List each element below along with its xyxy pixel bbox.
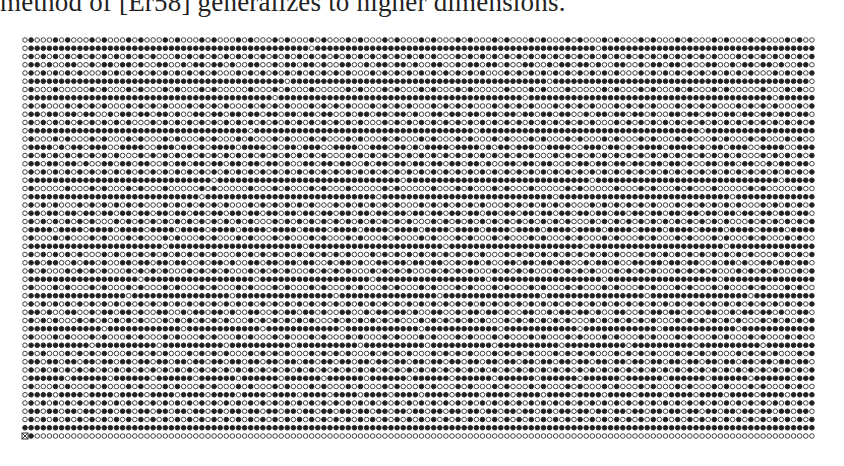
filled-point: [395, 79, 400, 84]
filled-point: [639, 203, 644, 208]
open-point: [547, 302, 552, 307]
filled-point: [688, 38, 693, 43]
open-point: [334, 38, 339, 43]
filled-point: [541, 285, 546, 290]
open-point: [291, 137, 296, 142]
filled-point: [285, 368, 290, 373]
open-point: [352, 252, 357, 257]
open-point: [499, 211, 504, 216]
filled-point: [163, 409, 168, 414]
filled-point: [535, 227, 540, 232]
filled-point: [47, 145, 52, 150]
filled-point: [65, 252, 70, 257]
filled-point: [669, 211, 674, 216]
open-point: [663, 112, 668, 117]
open-point: [791, 161, 796, 166]
open-point: [572, 62, 577, 67]
open-point: [450, 104, 455, 109]
open-point: [560, 236, 565, 241]
filled-point: [523, 409, 528, 414]
filled-point: [602, 161, 607, 166]
filled-point: [419, 425, 424, 430]
filled-point: [523, 46, 528, 51]
open-point: [96, 54, 101, 59]
open-point: [377, 120, 382, 125]
open-point: [120, 38, 125, 43]
filled-point: [797, 417, 802, 422]
filled-point: [651, 38, 656, 43]
open-point: [340, 71, 345, 76]
filled-point: [96, 376, 101, 381]
filled-point: [29, 359, 34, 364]
open-point: [523, 203, 528, 208]
filled-point: [90, 46, 95, 51]
filled-point: [797, 95, 802, 100]
open-point: [645, 293, 650, 298]
filled-point: [291, 112, 296, 117]
open-point: [621, 260, 626, 265]
open-point: [236, 186, 241, 191]
filled-point: [743, 145, 748, 150]
open-point: [694, 392, 699, 397]
open-point: [621, 219, 626, 224]
open-point: [511, 417, 516, 422]
open-point: [133, 252, 138, 257]
filled-point: [761, 153, 766, 158]
filled-point: [346, 170, 351, 175]
filled-point: [761, 38, 766, 43]
open-point: [377, 384, 382, 389]
filled-point: [639, 46, 644, 51]
open-point: [669, 219, 674, 224]
filled-point: [614, 368, 619, 373]
open-point: [596, 186, 601, 191]
filled-point: [364, 194, 369, 199]
filled-point: [218, 194, 223, 199]
filled-point: [65, 269, 70, 274]
open-point: [608, 170, 613, 175]
filled-point: [187, 401, 192, 406]
filled-point: [480, 153, 485, 158]
open-point: [590, 335, 595, 340]
open-point: [444, 384, 449, 389]
filled-point: [529, 384, 534, 389]
filled-point: [254, 62, 259, 67]
filled-point: [706, 310, 711, 315]
filled-point: [584, 409, 589, 414]
filled-point: [614, 302, 619, 307]
open-point: [72, 285, 77, 290]
filled-point: [712, 71, 717, 76]
filled-point: [358, 326, 363, 331]
filled-point: [578, 401, 583, 406]
open-point: [352, 120, 357, 125]
open-point: [511, 227, 516, 232]
filled-point: [596, 392, 601, 397]
open-point: [59, 401, 64, 406]
filled-point: [90, 95, 95, 100]
filled-point: [724, 401, 729, 406]
open-point: [584, 285, 589, 290]
filled-point: [126, 417, 131, 422]
filled-point: [334, 302, 339, 307]
filled-point: [102, 145, 107, 150]
open-point: [47, 401, 52, 406]
filled-point: [261, 128, 266, 133]
filled-point: [212, 392, 217, 397]
open-point: [352, 153, 357, 158]
filled-point: [47, 112, 52, 117]
filled-point: [505, 236, 510, 241]
filled-point: [474, 260, 479, 265]
filled-point: [273, 293, 278, 298]
open-point: [773, 186, 778, 191]
filled-point: [657, 227, 662, 232]
filled-point: [236, 211, 241, 216]
filled-point: [810, 170, 815, 175]
filled-point: [505, 120, 510, 125]
filled-point: [584, 376, 589, 381]
filled-point: [151, 392, 156, 397]
filled-point: [273, 277, 278, 282]
open-point: [145, 104, 150, 109]
filled-point: [370, 368, 375, 373]
filled-point: [114, 219, 119, 224]
filled-point: [785, 178, 790, 183]
open-point: [425, 170, 430, 175]
